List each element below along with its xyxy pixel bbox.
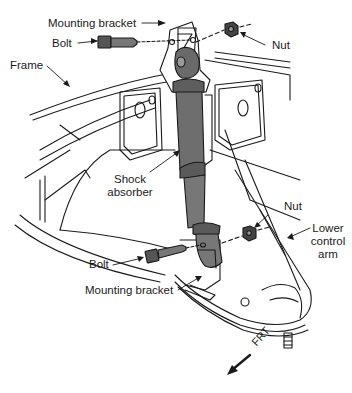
label-bottom-bolt: Bolt bbox=[89, 258, 109, 271]
lower-bolt-drawing bbox=[145, 243, 206, 263]
label-top-nut: Nut bbox=[272, 39, 290, 52]
label-shock-absorber: Shock absorber bbox=[104, 173, 156, 199]
label-lca-line1: Lower bbox=[304, 222, 352, 235]
lower-nut-drawing bbox=[222, 226, 270, 243]
label-bottom-nut: Nut bbox=[284, 200, 302, 213]
shock-absorber-drawing bbox=[173, 47, 222, 268]
label-bottom-mounting-bracket: Mounting bracket bbox=[85, 284, 173, 297]
shock-absorber-illustration bbox=[0, 0, 352, 393]
label-shock-line2: absorber bbox=[104, 186, 156, 199]
label-top-mounting-bracket: Mounting bracket bbox=[48, 17, 136, 30]
label-shock-line1: Shock bbox=[104, 173, 156, 186]
frt-arrow-icon bbox=[227, 355, 250, 375]
label-top-bolt: Bolt bbox=[52, 37, 72, 50]
label-lower-control-arm: Lower control arm bbox=[304, 222, 352, 261]
frame bbox=[25, 52, 290, 200]
label-frame: Frame bbox=[10, 59, 43, 72]
label-lca-line3: arm bbox=[304, 248, 352, 261]
label-lca-line2: control bbox=[304, 235, 352, 248]
